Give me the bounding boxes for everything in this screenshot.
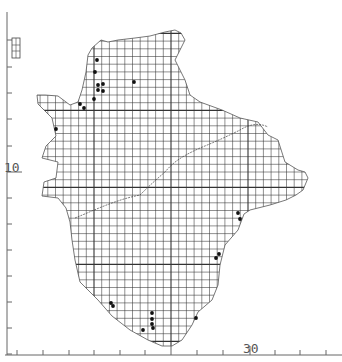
island-inset [12, 38, 20, 58]
grid-cells [0, 0, 342, 362]
x-axis-ticks [17, 346, 326, 355]
y-axis-ticks [7, 40, 22, 354]
coastline-outline [37, 30, 308, 346]
y-axis-label-10: 10 [4, 160, 20, 175]
x-axis-label-30: 30 [243, 341, 259, 356]
distribution-grid-map: 10 30 [0, 0, 342, 362]
